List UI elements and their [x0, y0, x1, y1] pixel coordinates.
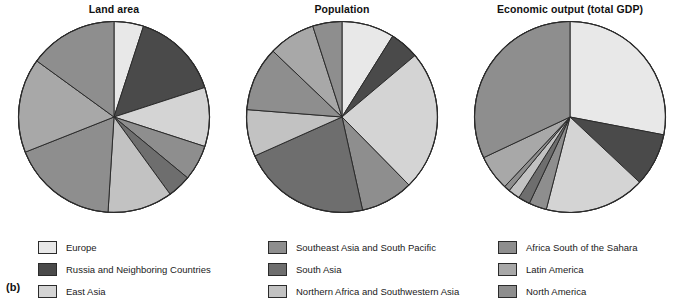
legend-item-africa-south-of-the-sahara: Africa South of the Sahara [498, 236, 684, 258]
chart-title-population: Population [228, 3, 456, 15]
pie-slice [570, 22, 666, 135]
pie-svg-land-area [16, 19, 212, 215]
legend-item-northern-africa-and-southwestern-asia: Northern Africa and Southwestern Asia [268, 281, 498, 303]
pie-population [244, 19, 440, 215]
legend-item-latin-america: Latin America [498, 258, 684, 280]
charts-row: Land area Population Economic output (to… [0, 0, 684, 236]
legend-swatch-north-america [498, 285, 517, 298]
legend-label-africa-south-of-the-sahara: Africa South of the Sahara [526, 242, 637, 253]
chart-title-economic-output: Economic output (total GDP) [456, 3, 684, 15]
legend-swatch-latin-america [498, 263, 517, 276]
legend-swatch-europe [38, 241, 57, 254]
legend-label-latin-america: Latin America [526, 264, 584, 275]
legend-column-2: Southeast Asia and South Pacific South A… [268, 236, 498, 303]
legend-item-europe: Europe [38, 236, 258, 258]
legend-item-north-america: North America [498, 281, 684, 303]
legend-item-southeast-asia-and-south-pacific: Southeast Asia and South Pacific [268, 236, 498, 258]
chart-land-area: Land area [0, 0, 228, 236]
figure-panel-b: Land area Population Economic output (to… [0, 0, 684, 303]
legend-column-3: Africa South of the Sahara Latin America… [498, 236, 684, 303]
chart-title-land-area: Land area [0, 3, 228, 15]
legend-label-southeast-asia-and-south-pacific: Southeast Asia and South Pacific [296, 242, 436, 253]
pie-land-area [16, 19, 212, 215]
legend-swatch-africa-south-of-the-sahara [498, 241, 517, 254]
chart-population: Population [228, 0, 456, 236]
pie-svg-economic-output [472, 19, 668, 215]
figure-label: (b) [6, 281, 20, 293]
legend-item-south-asia: South Asia [268, 258, 498, 280]
legend-column-1: Europe Russia and Neighboring Countries … [38, 236, 258, 303]
legend-swatch-southeast-asia-and-south-pacific [268, 241, 287, 254]
legend-label-russia-and-neighboring-countries: Russia and Neighboring Countries [66, 264, 211, 275]
legend-label-northern-africa-and-southwestern-asia: Northern Africa and Southwestern Asia [296, 286, 459, 297]
chart-economic-output: Economic output (total GDP) [456, 0, 684, 236]
pie-economic-output [472, 19, 668, 215]
legend: Europe Russia and Neighboring Countries … [0, 236, 684, 303]
legend-label-east-asia: East Asia [66, 286, 106, 297]
legend-item-east-asia: East Asia [38, 281, 258, 303]
legend-swatch-east-asia [38, 285, 57, 298]
legend-label-europe: Europe [66, 242, 97, 253]
pie-svg-population [244, 19, 440, 215]
legend-item-russia-and-neighboring-countries: Russia and Neighboring Countries [38, 258, 258, 280]
legend-label-north-america: North America [526, 286, 586, 297]
legend-label-south-asia: South Asia [296, 264, 341, 275]
legend-swatch-northern-africa-and-southwestern-asia [268, 285, 287, 298]
legend-swatch-south-asia [268, 263, 287, 276]
legend-swatch-russia-and-neighboring-countries [38, 263, 57, 276]
